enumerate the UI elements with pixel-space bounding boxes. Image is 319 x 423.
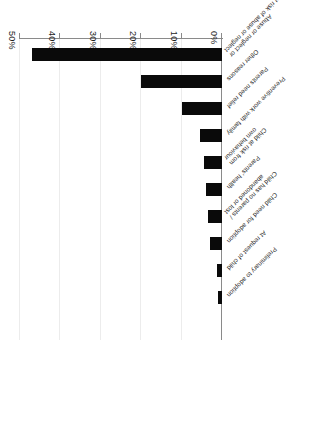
bar-parents-health[interactable] [206, 183, 222, 196]
bar-at-request-of-child[interactable] [217, 264, 222, 277]
x-tick-0 [221, 33, 222, 38]
bar-child-at-risk-own-behaviour[interactable] [204, 156, 222, 169]
bar-parents-need-relief[interactable] [182, 102, 222, 115]
x-tick-50 [19, 33, 20, 38]
x-tick-10 [181, 33, 182, 38]
bar-child-need-for-adoption[interactable] [210, 237, 222, 250]
x-tick-40 [59, 33, 60, 38]
x-tick-label-50: 50% [7, 31, 17, 50]
bar-other-reasons[interactable] [141, 75, 222, 88]
x-tick-30 [100, 33, 101, 38]
plot-area [20, 41, 222, 338]
bar-chart: 0% 10% 20% 30% 40% 50% [0, 0, 319, 423]
bar-preventive-work-with-family[interactable] [200, 129, 222, 142]
x-tick-20 [140, 33, 141, 38]
bar-child-has-no-parents[interactable] [208, 210, 222, 223]
chart-figure-rotated: 0% 10% 20% 30% 40% 50% [0, 0, 319, 423]
bar-abuse-or-neglect[interactable] [32, 48, 222, 61]
bar-preliminary-to-adoption[interactable] [218, 291, 222, 304]
